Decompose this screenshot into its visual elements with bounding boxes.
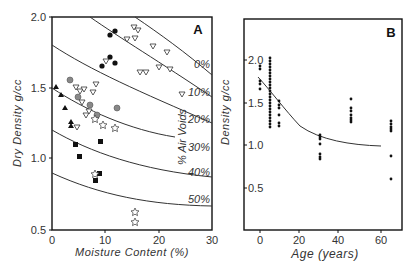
panel-label-a: A <box>193 22 203 37</box>
x-tick: 0 <box>49 234 55 246</box>
y-axis-label-a: Dry Density g/cc <box>11 79 23 167</box>
x-axis-a: 0 10 20 30 <box>49 230 218 246</box>
curve-label: 20% <box>187 113 210 125</box>
y-axis-a: 2.0 1.5 1.0 0.5 <box>31 11 52 236</box>
y-tick: 1.0 <box>31 152 46 164</box>
markers-filled-square <box>73 139 103 183</box>
y-axis-label-b: Density g/cc <box>219 79 231 145</box>
y-axis-b: 2.0 1.5 1.0 0.5 <box>244 54 263 194</box>
y-tick: 2.0 <box>31 11 46 23</box>
curve-labels: 0% 10% 20% 30% 40% 50% % Air Voids <box>176 58 210 205</box>
y-tick: 2.0 <box>248 54 263 66</box>
figure: 2.0 1.5 1.0 0.5 0 10 20 30 Moisture Cont… <box>0 0 416 280</box>
x-tick: 0 <box>257 234 263 246</box>
curve-20pct <box>52 45 212 123</box>
markers-black-circle <box>99 28 117 68</box>
x-tick: 20 <box>153 234 165 246</box>
y-tick: 1.5 <box>31 82 46 94</box>
air-voids-label: % Air Voids <box>176 108 188 165</box>
panel-label-b: B <box>386 25 395 40</box>
panel-b: 2.0 1.5 1.0 0.5 0 20 40 60 Age (years) D… <box>219 19 402 261</box>
y-tick: 1.5 <box>248 97 263 109</box>
curve-label: 30% <box>188 141 210 153</box>
y-tick: 0.5 <box>31 224 46 236</box>
curve-label: 40% <box>188 166 210 178</box>
y-tick: 0.5 <box>248 182 263 194</box>
x-tick: 30 <box>206 234 218 246</box>
x-axis-label-a: Moisture Content (%) <box>75 246 189 258</box>
plot-frame-b <box>244 19 402 230</box>
x-tick: 20 <box>293 234 305 246</box>
curve-label: 10% <box>188 86 210 98</box>
x-axis-b: 0 20 40 60 <box>257 230 387 246</box>
markers-open-star <box>91 115 139 226</box>
panel-a: 2.0 1.5 1.0 0.5 0 10 20 30 Moisture Cont… <box>11 11 218 258</box>
markers-b <box>259 57 393 181</box>
x-tick: 10 <box>99 234 111 246</box>
y-tick: 1.0 <box>248 139 263 151</box>
curve-label: 0% <box>194 58 210 70</box>
x-tick: 60 <box>375 234 387 246</box>
x-tick: 40 <box>332 234 344 246</box>
x-axis-label-b: Age (years) <box>290 247 359 261</box>
curve-label: 50% <box>188 193 210 205</box>
